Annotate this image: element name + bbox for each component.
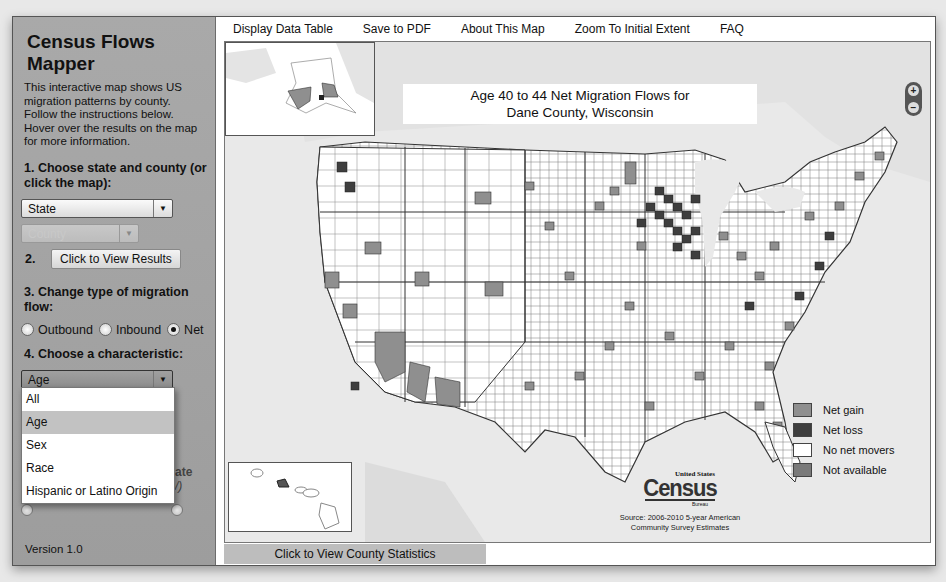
source-note: Source: 2006-2010 5-year American Commun… <box>615 513 745 533</box>
radio-outbound[interactable]: Outbound <box>21 323 93 337</box>
chevron-down-icon: ▼ <box>153 371 172 388</box>
characteristic-select-value: Age <box>28 373 49 387</box>
dropdown-option-race[interactable]: Race <box>22 457 174 480</box>
hidden-text-fragment: /) <box>175 479 182 493</box>
step2-row: 2. Click to View Results <box>25 249 207 269</box>
legend-item-net-loss: Net loss <box>793 420 895 440</box>
census-logo-main: Census <box>615 477 745 499</box>
characteristic-select[interactable]: Age ▼ <box>21 370 173 389</box>
legend-label: Not available <box>823 464 887 476</box>
chevron-down-icon: ▼ <box>153 200 172 217</box>
faq-link[interactable]: FAQ <box>720 22 744 36</box>
map-title: Age 40 to 44 Net Migration Flows for Dan… <box>403 84 757 124</box>
hawaii-map <box>229 463 351 531</box>
radio-inbound[interactable]: Inbound <box>99 323 161 337</box>
display-data-table-link[interactable]: Display Data Table <box>233 22 333 36</box>
save-to-pdf-link[interactable]: Save to PDF <box>363 22 431 36</box>
census-logo: United States Census Bureau Source: 2006… <box>615 470 745 533</box>
app-title: Census Flows Mapper <box>27 31 207 75</box>
legend-swatch <box>793 423 812 437</box>
source-line2: Community Survey Estimates <box>615 523 745 533</box>
characteristic-dropdown-list: All Age Sex Race Hispanic or Latino Orig… <box>21 387 175 504</box>
dropdown-option-age[interactable]: Age <box>22 411 174 434</box>
state-select-value: State <box>28 202 56 216</box>
legend-label: Net gain <box>823 404 864 416</box>
legend-label: Net loss <box>823 424 863 436</box>
main-content: Display Data Table Save to PDF About Thi… <box>217 17 935 565</box>
legend-label: No net movers <box>823 444 895 456</box>
map-title-line1: Age 40 to 44 Net Migration Flows for <box>403 87 757 104</box>
census-logo-bottom: Bureau <box>655 501 745 507</box>
map-title-line2: Dane County, Wisconsin <box>403 104 757 121</box>
toolbar: Display Data Table Save to PDF About Thi… <box>217 17 935 41</box>
radio-label: Inbound <box>116 323 161 337</box>
radio-label: Net <box>184 323 203 337</box>
step3-heading: 3. Change type of migration flow: <box>24 285 207 315</box>
radio-button[interactable] <box>21 323 34 336</box>
alaska-inset[interactable] <box>225 42 375 136</box>
zoom-in-icon[interactable]: + <box>908 85 919 96</box>
map-legend: Net gain Net loss No net movers Not avai… <box>793 400 895 480</box>
hidden-radio[interactable] <box>21 504 33 516</box>
legend-swatch <box>793 443 812 457</box>
dropdown-option-all[interactable]: All <box>22 388 174 411</box>
zoom-control: + − <box>905 82 922 116</box>
legend-swatch <box>793 403 812 417</box>
step1-heading: 1. Choose state and county (or click the… <box>24 161 207 191</box>
state-select[interactable]: State ▼ <box>21 199 173 218</box>
zoom-out-icon[interactable]: − <box>908 102 919 113</box>
hidden-text-fragment: ate <box>175 465 192 479</box>
legend-item-not-available: Not available <box>793 460 895 480</box>
legend-item-no-net-movers: No net movers <box>793 440 895 460</box>
dropdown-option-hispanic-origin[interactable]: Hispanic or Latino Origin <box>22 480 174 503</box>
county-statistics-button[interactable]: Click to View County Statistics <box>224 544 486 564</box>
view-results-button[interactable]: Click to View Results <box>51 249 181 269</box>
step4-heading: 4. Choose a characteristic: <box>24 347 207 362</box>
radio-button[interactable] <box>99 323 112 336</box>
intro-text: This interactive map shows US migration … <box>24 81 207 149</box>
chevron-down-icon: ▼ <box>119 225 138 242</box>
about-this-map-link[interactable]: About This Map <box>461 22 545 36</box>
map-canvas[interactable]: Age 40 to 44 Net Migration Flows for Dan… <box>224 41 931 543</box>
county-select[interactable]: County ▼ <box>21 224 139 243</box>
radio-label: Outbound <box>38 323 93 337</box>
legend-swatch <box>793 463 812 477</box>
legend-item-net-gain: Net gain <box>793 400 895 420</box>
source-line1: Source: 2006-2010 5-year American <box>615 513 745 523</box>
county-select-value: County <box>28 227 66 241</box>
radio-net[interactable]: Net <box>167 323 203 337</box>
app-window: Census Flows Mapper This interactive map… <box>12 16 936 566</box>
radio-button-checked[interactable] <box>167 323 180 336</box>
hidden-radio[interactable] <box>171 504 183 516</box>
version-label: Version 1.0 <box>25 543 83 555</box>
sidebar: Census Flows Mapper This interactive map… <box>13 17 216 565</box>
dropdown-option-sex[interactable]: Sex <box>22 434 174 457</box>
hawaii-inset[interactable] <box>228 462 352 532</box>
alaska-map <box>226 43 374 135</box>
zoom-initial-extent-link[interactable]: Zoom To Initial Extent <box>575 22 690 36</box>
step2-number: 2. <box>25 252 51 266</box>
flow-type-radios: Outbound Inbound Net <box>21 323 207 337</box>
